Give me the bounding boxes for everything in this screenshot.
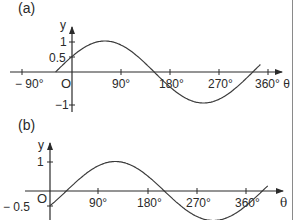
panel-a-ytick-neg1: −1 [55,98,69,112]
panel-a-label: (a) [18,0,35,16]
panel-a-xtick-neg90: − 90° [15,77,44,91]
panel-a-ytick-0.5: 0.5 [49,51,66,65]
panel-a: (a) y 1 0.5 −1 O − 90° 90° 180° 270° 360… [10,0,290,112]
panel-a-ytick-1: 1 [60,35,67,49]
panel-b-y-label: y [38,138,44,152]
panel-b-ytick-1: 1 [37,155,44,169]
panel-b-label: (b) [18,117,35,133]
figure: (a) y 1 0.5 −1 O − 90° 90° 180° 270° 360… [0,0,297,220]
right-border [292,0,293,220]
panel-b-x-label: θ [280,196,287,210]
panel-b-xtick-180: 180° [137,196,162,210]
panel-a-y-label: y [60,18,66,32]
panel-b-xtick-360: 360° [235,196,260,210]
panel-b-xtick-90: 90° [89,196,107,210]
panel-a-xtick-360: 360° θ [255,77,290,91]
panel-a-xtick-270: 270° [208,77,233,91]
panel-b-xtick-270: 270° [186,196,211,210]
panel-a-origin-label: O [61,76,71,91]
panel-b: (b) y 1 − 0.5 O 90° 180° 270° 360° θ [3,117,287,220]
panel-a-xtick-90: 90° [112,77,130,91]
panel-b-ytick-neg0.5: − 0.5 [3,200,30,214]
panel-b-origin-label: O [37,191,47,206]
